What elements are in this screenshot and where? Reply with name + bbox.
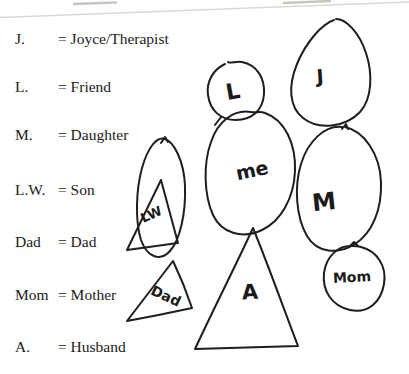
dad-label: Dad <box>149 282 184 310</box>
therapist-circle: J <box>291 19 370 126</box>
friend-label: L <box>224 78 242 105</box>
son-label: LW <box>138 203 164 226</box>
mother-label: Mom <box>333 268 372 286</box>
therapist-circle-outline <box>291 19 370 126</box>
mother-circle: Mom <box>324 242 385 311</box>
husband-label: A <box>241 280 259 305</box>
son-shape: LW <box>127 137 185 257</box>
daughter-oval: M <box>297 124 381 251</box>
me-oval: me <box>206 112 295 235</box>
scanned-page: J. = Joyce/Therapist L. = Friend M. = Da… <box>0 0 409 374</box>
relationship-diagram: L J me M LW Dad <box>0 0 409 374</box>
daughter-oval-pen-tick <box>342 124 348 129</box>
dad-triangle: Dad <box>127 261 192 321</box>
therapist-label: J <box>314 65 325 88</box>
husband-triangle: A <box>195 228 298 349</box>
me-label: me <box>234 156 271 184</box>
daughter-oval-outline <box>297 127 381 251</box>
daughter-label: M <box>311 187 338 217</box>
